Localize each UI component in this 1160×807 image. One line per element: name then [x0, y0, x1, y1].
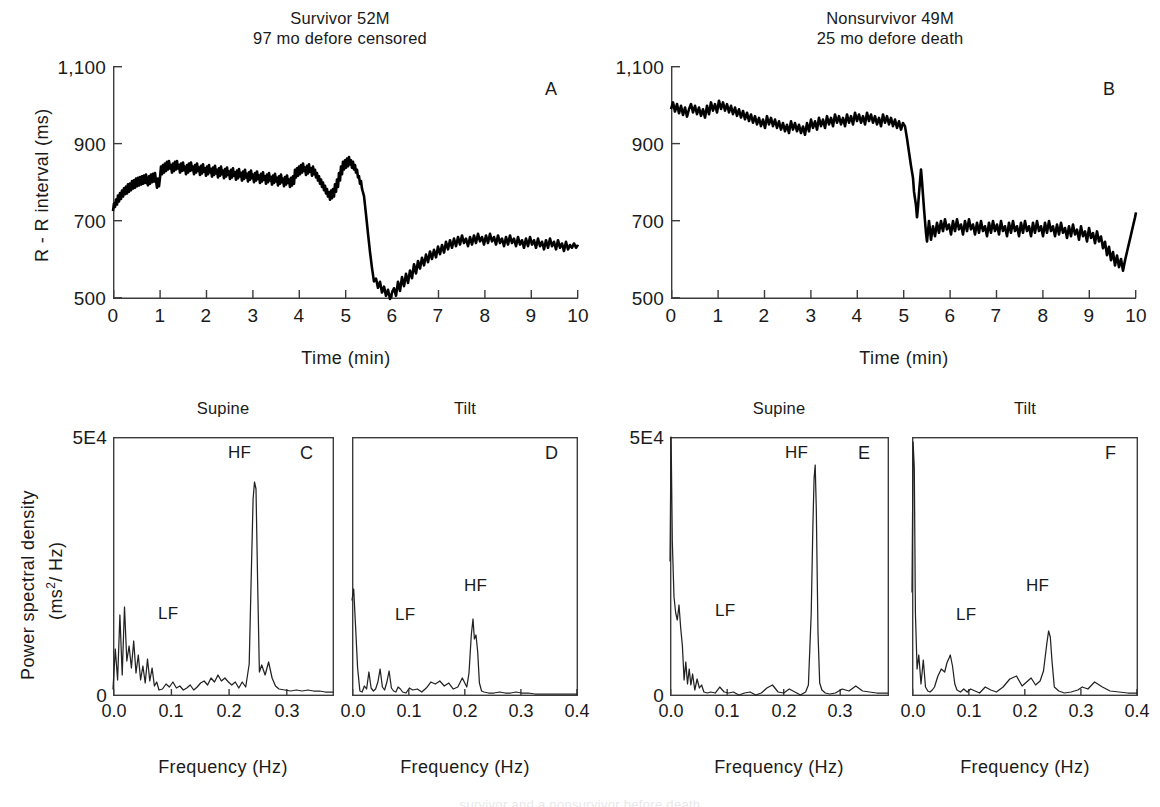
condition-label-tilt-right: Tilt [925, 398, 1125, 418]
panel-a-xtick-9: 9 [521, 306, 541, 325]
axis-label-frequency-d: Frequency (Hz) [365, 757, 565, 778]
panel-letter-a: A [545, 79, 557, 100]
panel-b-xtick-6: 6 [940, 306, 960, 325]
panel-c-plot [113, 437, 334, 696]
axis-label-psd-units-pre: (ms [46, 589, 66, 620]
panel-d-plot [352, 437, 578, 696]
panel-b-xtick-10: 10 [1123, 306, 1149, 325]
panel-a-xtick-3: 3 [243, 306, 263, 325]
axis-label-psd-units-exponent: 2 [44, 582, 58, 589]
panel-d-hf-label: HF [464, 576, 487, 596]
axis-label-time-left: Time (min) [246, 348, 446, 369]
panel-d-xtick-0: 0.0 [333, 702, 373, 720]
panel-letter-f: F [1105, 443, 1116, 464]
panel-c-xtick-3: 0.3 [267, 702, 307, 720]
panel-a-xtick-6: 6 [382, 306, 402, 325]
panel-a-xtick-1: 1 [150, 306, 170, 325]
panel-a-xtick-5: 5 [336, 306, 356, 325]
panel-letter-e: E [858, 443, 870, 464]
panel-a-ytick-1100: 1,100 [42, 58, 106, 77]
panel-b-xtick-7: 7 [986, 306, 1006, 325]
panel-f-plot [912, 437, 1138, 696]
panel-f-xtick-0: 0.0 [893, 702, 933, 720]
panel-a-xtick-4: 4 [289, 306, 309, 325]
axis-label-time-right: Time (min) [804, 348, 1004, 369]
figure-root: Survivor 52M 97 mo defore censored Nonsu… [0, 0, 1160, 807]
panel-c-xtick-2: 0.2 [209, 702, 249, 720]
panel-b-xtick-5: 5 [894, 306, 914, 325]
panel-f-xtick-4: 0.4 [1117, 702, 1157, 720]
group-right-title-line1: Nonsurvivor 49M [740, 8, 1040, 28]
panel-b-ytick-500: 500 [600, 289, 664, 308]
panel-b-plot [671, 66, 1137, 299]
panel-e-xtick-0: 0.0 [651, 702, 691, 720]
group-title-right: Nonsurvivor 49M 25 mo defore death [740, 8, 1040, 48]
axis-label-frequency-c: Frequency (Hz) [123, 757, 323, 778]
panel-e-xtick-1: 0.1 [707, 702, 747, 720]
panel-d-xtick-2: 0.2 [445, 702, 485, 720]
panel-b-xtick-3: 3 [801, 306, 821, 325]
axis-label-frequency-e: Frequency (Hz) [679, 757, 879, 778]
panel-letter-d: D [545, 443, 558, 464]
panel-a-ytick-900: 900 [42, 135, 106, 154]
condition-label-supine-right: Supine [679, 398, 879, 418]
group-left-title-line1: Survivor 52M [195, 8, 485, 28]
panel-b-xtick-9: 9 [1079, 306, 1099, 325]
panel-b-ytick-700: 700 [600, 212, 664, 231]
panel-a-xtick-10: 10 [565, 306, 591, 325]
panel-f-xtick-2: 0.2 [1005, 702, 1045, 720]
panel-a-xtick-8: 8 [475, 306, 495, 325]
panel-letter-b: B [1103, 79, 1115, 100]
panel-d-xtick-3: 0.3 [501, 702, 541, 720]
axis-label-psd: Power spectral density [18, 490, 39, 680]
group-right-title-line2: 25 mo defore death [740, 28, 1040, 48]
panel-b-xtick-8: 8 [1033, 306, 1053, 325]
axis-label-psd-line1: Power spectral density [18, 490, 39, 680]
panel-d-xtick-4: 0.4 [557, 702, 597, 720]
panel-c-ytick-top: 5E4 [55, 428, 107, 447]
group-title-left: Survivor 52M 97 mo defore censored [195, 8, 485, 48]
panel-b-ytick-1100: 1,100 [600, 58, 664, 77]
axis-label-psd-units: (ms2/ Hz) [44, 542, 67, 620]
panel-d-lf-label: LF [395, 605, 415, 625]
panel-letter-c: C [300, 443, 313, 464]
panel-e-plot [670, 437, 889, 696]
panel-b-xtick-1: 1 [708, 306, 728, 325]
panel-a-plot [113, 66, 579, 299]
panel-b-xtick-4: 4 [847, 306, 867, 325]
panel-e-lf-label: LF [715, 601, 735, 621]
axis-label-frequency-f: Frequency (Hz) [925, 757, 1125, 778]
panel-e-xtick-3: 0.3 [820, 702, 860, 720]
panel-a-xtick-7: 7 [428, 306, 448, 325]
panel-a-xtick-2: 2 [196, 306, 216, 325]
panel-a-ytick-500: 500 [42, 289, 106, 308]
group-left-title-line2: 97 mo defore censored [195, 28, 485, 48]
panel-f-lf-label: LF [956, 605, 976, 625]
panel-c-xtick-0: 0.0 [94, 702, 134, 720]
panel-d-xtick-1: 0.1 [389, 702, 429, 720]
condition-label-tilt-left: Tilt [365, 398, 565, 418]
panel-a-ytick-700: 700 [42, 212, 106, 231]
panel-c-xtick-1: 0.1 [151, 702, 191, 720]
panel-b-ytick-900: 900 [600, 135, 664, 154]
panel-c-hf-label: HF [228, 443, 251, 463]
panel-f-xtick-1: 0.1 [949, 702, 989, 720]
panel-f-hf-label: HF [1026, 576, 1049, 596]
panel-e-xtick-2: 0.2 [764, 702, 804, 720]
caption-fragment: survivor and a nonsurvivor before death [0, 797, 1160, 807]
panel-b-xtick-0: 0 [661, 306, 681, 325]
panel-c-lf-label: LF [158, 604, 178, 624]
panel-e-ytick-top: 5E4 [612, 428, 664, 447]
panel-b-xtick-2: 2 [754, 306, 774, 325]
panel-f-xtick-3: 0.3 [1061, 702, 1101, 720]
panel-e-hf-label: HF [785, 443, 808, 463]
axis-label-psd-units-post: / Hz) [46, 542, 66, 582]
axis-label-rr-interval-left: R - R interval (ms) [32, 108, 53, 262]
condition-label-supine-left: Supine [123, 398, 323, 418]
panel-a-xtick-0: 0 [103, 306, 123, 325]
